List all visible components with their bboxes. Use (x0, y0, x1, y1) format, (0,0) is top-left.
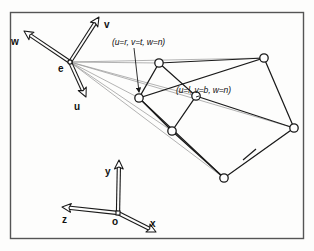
axis-label-z: z (62, 214, 67, 225)
annotation-near-bottom-left: (u=l, v=b, w=n) (176, 85, 231, 95)
axis-label-w: w (11, 36, 19, 47)
axis-label-v: v (104, 19, 110, 30)
world-origin-label: o (112, 216, 118, 227)
axis-label-y: y (105, 166, 111, 177)
frustum-edges (139, 58, 294, 178)
annotation-near-top-right: (u=r, v=t, w=n) (112, 37, 165, 47)
eye-origin-label: e (58, 63, 64, 74)
world-origin-point (116, 211, 120, 215)
eye-coordinate-axes (24, 17, 99, 97)
eye-origin-point (68, 60, 72, 64)
eye-projection-rays (70, 58, 294, 178)
axis-label-u: u (74, 101, 80, 112)
figure-canvas: v w u e y z x o (u=r, v=t, w=n) (u=l, v=… (0, 0, 314, 251)
edge-tick-mark (243, 149, 256, 160)
axis-label-x: x (150, 218, 156, 229)
